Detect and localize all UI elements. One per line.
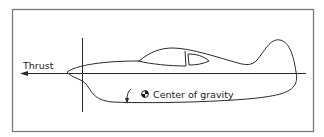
center-of-gravity-label: Center of gravity (153, 89, 234, 100)
thrust-label: Thrust (22, 60, 54, 71)
diagram-frame (13, 10, 314, 132)
canopy-frame-line (185, 51, 186, 66)
airplane-thrust-diagram: Thrust Center of gravity (0, 0, 324, 137)
canopy-base-line (138, 61, 186, 66)
center-of-gravity-icon (142, 91, 149, 98)
canopy-window (188, 54, 209, 65)
thrust-arrow-icon (20, 71, 28, 76)
pitch-arrowhead (125, 98, 129, 104)
